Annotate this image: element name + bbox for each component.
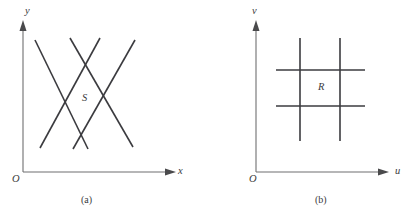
panel-b: v u O R (b) [205,0,409,217]
y-axis-label: y [25,6,30,17]
x-axis-arrow-icon [165,169,176,176]
u-axis-arrow-icon [378,169,389,176]
region-s-line-positive-left [40,38,100,148]
x-axis-label: x [178,166,183,177]
v-axis-arrow-icon [253,20,260,31]
panel-b-caption: (b) [315,194,327,205]
y-axis-arrow-icon [20,20,27,31]
panel-a-graphic [0,0,204,217]
origin-label-a: O [12,174,20,185]
v-axis-label: v [252,6,257,17]
panel-a: y x O S (a) [0,0,204,217]
panel-a-caption: (a) [81,194,92,205]
origin-label-b: O [249,174,257,185]
region-label-s: S [81,93,88,104]
region-label-r: R [317,82,325,93]
panel-b-graphic [205,0,409,217]
figure-root: y x O S (a) v u O R (b) [0,0,409,217]
u-axis-label: u [395,166,400,177]
